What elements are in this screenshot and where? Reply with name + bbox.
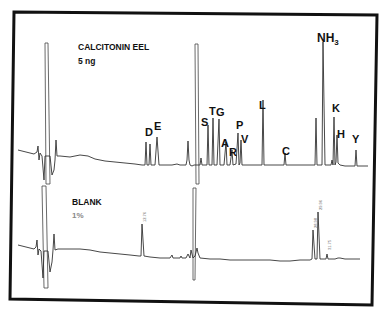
peak-label-r: R [229,146,237,158]
peak-label-l: L [259,99,266,111]
rt-label: 28.98 [313,217,318,228]
peak-label-nh3: NH3 [317,31,339,47]
blank-title: BLANK [72,197,103,207]
injection-artifact [195,44,199,184]
peak-label-s: S [201,116,208,128]
sample-title: CALCITONIN EEL [78,42,149,52]
peak-label-h: H [337,128,345,140]
rt-label: 12.76 [142,211,147,222]
peak-label-v: V [241,133,249,145]
peak-label-c: C [282,145,290,157]
rt-label: 29.96 [318,199,323,210]
peak-label-d: D [145,126,153,138]
sample-panel: CALCITONIN EEL 5 ng D E S T G A R P V L … [18,31,368,184]
chromatogram-figure: CALCITONIN EEL 5 ng D E S T G A R P V L … [0,0,385,314]
peak-label-t: T [209,105,216,117]
sample-amount: 5 ng [78,56,95,66]
sample-trace [18,42,368,180]
injection-artifact [45,43,50,184]
peak-label-p: P [236,119,243,131]
injection-artifact [193,188,196,280]
peak-label-a: A [221,137,229,149]
peak-label-e: E [154,120,161,132]
rt-label: 31.75 [327,239,332,250]
peak-label-y: Y [352,133,360,145]
peak-label-k: K [332,102,340,114]
blank-amount: 1% [72,211,84,220]
peak-label-g: G [216,106,225,118]
blank-panel: BLANK 1% 12.76 28.98 29.96 31.75 [18,186,360,288]
blank-trace [18,212,360,278]
